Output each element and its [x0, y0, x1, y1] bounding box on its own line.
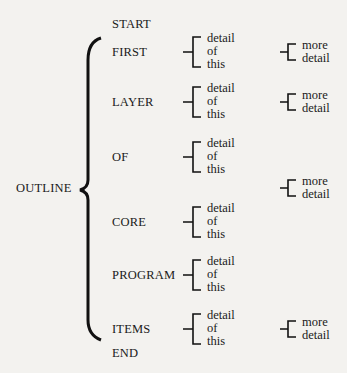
detail-line: this [207, 58, 235, 71]
detail-block-program: detail of this [207, 255, 235, 294]
more-line: detail [302, 188, 330, 201]
end-label: END [112, 346, 138, 361]
start-label: START [112, 17, 151, 32]
outline-root-label: OUTLINE [16, 181, 72, 196]
more-block-first: more detail [302, 39, 330, 65]
detail-block-layer: detail of this [207, 82, 235, 121]
detail-line: this [207, 108, 235, 121]
detail-line: this [207, 163, 235, 176]
detail-block-core: detail of this [207, 202, 235, 241]
detail-line: this [207, 281, 235, 294]
detail-line: this [207, 335, 235, 348]
more-line: detail [302, 52, 330, 65]
layer-of: OF [112, 150, 128, 165]
more-line: detail [302, 329, 330, 342]
more-block-floating: more detail [302, 175, 330, 201]
detail-block-of: detail of this [207, 137, 235, 176]
layer-items: ITEMS [112, 322, 151, 337]
layer-first: FIRST [112, 45, 147, 60]
main-brace-icon [80, 38, 101, 340]
layer-layer: LAYER [112, 95, 154, 110]
detail-line: this [207, 228, 235, 241]
detail-block-items: detail of this [207, 309, 235, 348]
detail-block-first: detail of this [207, 32, 235, 71]
more-line: detail [302, 102, 330, 115]
layer-core: CORE [112, 215, 146, 230]
more-block-layer: more detail [302, 89, 330, 115]
layer-program: PROGRAM [112, 268, 175, 283]
more-block-items: more detail [302, 316, 330, 342]
